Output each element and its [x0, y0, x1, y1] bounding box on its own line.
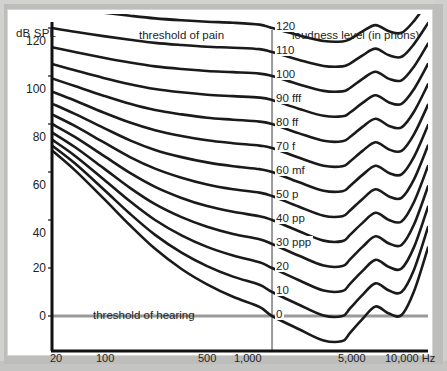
x-tick-label-20: 20: [50, 352, 62, 364]
y-tick-label-60: 60: [14, 178, 46, 192]
loudness-contour-curves: [52, 2, 428, 342]
y-tick-label-120: 120: [14, 34, 46, 48]
y-tick-label-80: 80: [14, 130, 46, 144]
y-tick-label-40: 40: [14, 226, 46, 240]
phon-label-70: 70 f: [275, 140, 297, 152]
legend-title-loudness-level: loudness level (in phons): [292, 29, 419, 41]
y-tick-label-100: 100: [14, 82, 46, 96]
phon-label-20: 20: [275, 260, 291, 272]
contour-curve-80-phon: [52, 78, 428, 141]
x-tick-label-10000: 10,000 Hz: [385, 352, 435, 364]
y-tick-label-20: 20: [14, 261, 46, 275]
phon-label-0: 0: [275, 308, 284, 320]
phon-label-10: 10: [275, 284, 291, 296]
phon-label-100: 100: [275, 68, 297, 80]
phon-label-110: 110: [275, 44, 296, 56]
y-tick-label-0: 0: [14, 309, 46, 323]
x-tick-label-100: 100: [96, 352, 114, 364]
contour-curve-30-phon: [52, 132, 428, 266]
phon-label-60: 60 mf: [275, 164, 307, 176]
phon-label-50: 50 p: [275, 188, 300, 200]
phon-label-80: 80 ff: [275, 116, 300, 128]
phon-label-30: 30 ppp: [275, 236, 313, 248]
x-tick-label-5000: 5,000: [338, 352, 366, 364]
contour-curve-60-phon: [52, 104, 428, 192]
phon-label-90: 90 fff: [275, 92, 303, 104]
phon-label-120: 120: [275, 20, 297, 32]
annotation-threshold-of-hearing: threshold of hearing: [93, 309, 195, 321]
annotation-threshold-of-pain: threshold of pain: [139, 29, 224, 41]
figure-root: dB SPL 120 100 80 60 40 20 0 20 100 500 …: [0, 0, 447, 371]
x-tick-label-1000: 1,000: [234, 352, 262, 364]
equal-loudness-chart: [0, 0, 447, 371]
phon-label-40: 40 pp: [275, 212, 307, 224]
x-tick-label-500: 500: [198, 352, 216, 364]
